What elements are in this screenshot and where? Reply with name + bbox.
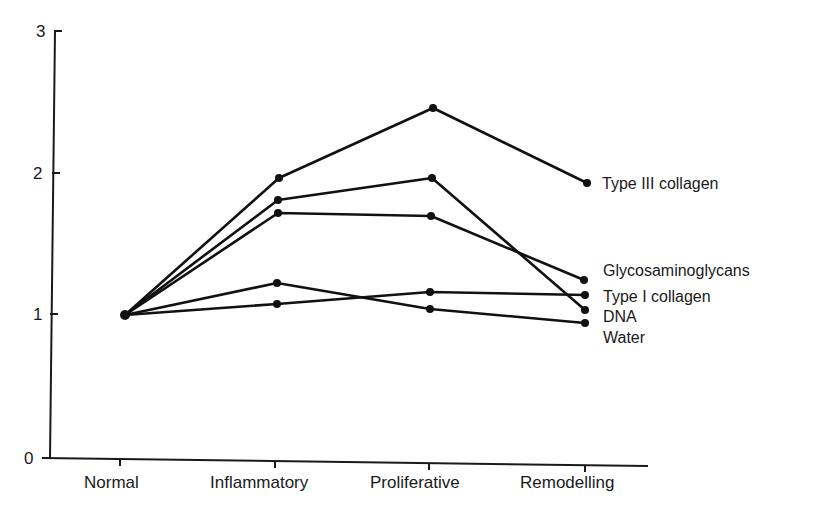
point — [274, 196, 282, 204]
point — [581, 291, 589, 299]
y-tick-label-0: 0 — [24, 449, 33, 468]
line-type-iii-collagen — [125, 108, 587, 315]
point — [429, 104, 437, 112]
label-glycosaminoglycans: Glycosaminoglycans — [603, 262, 750, 279]
label-water: Water — [603, 329, 646, 346]
line-chart: 3 2 1 0 Normal Inflammatory Proliferativ… — [0, 0, 815, 520]
series-labels: Type III collagen Glycosaminoglycans Typ… — [602, 175, 750, 346]
category-label-inflammatory: Inflammatory — [210, 473, 309, 492]
normal-origin-point — [120, 310, 130, 320]
axes — [42, 31, 648, 472]
label-type-i-collagen: Type I collagen — [603, 288, 711, 305]
label-type-iii-collagen: Type III collagen — [602, 175, 719, 192]
y-axis — [50, 31, 62, 458]
line-water — [125, 283, 585, 323]
point — [426, 305, 434, 313]
point — [274, 209, 282, 217]
y-tick-labels: 3 2 1 0 — [24, 22, 45, 468]
category-label-remodelling: Remodelling — [520, 473, 615, 492]
y-tick-label-1: 1 — [33, 305, 42, 324]
x-category-labels: Normal Inflammatory Proliferative Remode… — [84, 473, 615, 492]
point — [581, 319, 589, 327]
point — [426, 288, 434, 296]
series-water — [125, 279, 589, 327]
y-tick-label-3: 3 — [36, 22, 45, 41]
point — [273, 300, 281, 308]
point — [427, 212, 435, 220]
point — [428, 174, 436, 182]
category-label-normal: Normal — [84, 473, 139, 492]
point — [583, 179, 591, 187]
point — [580, 276, 588, 284]
point — [275, 174, 283, 182]
label-dna: DNA — [603, 308, 637, 325]
point — [273, 279, 281, 287]
series-type-iii-collagen — [125, 104, 591, 315]
x-axis — [42, 458, 648, 466]
y-tick-label-2: 2 — [33, 164, 42, 183]
category-label-proliferative: Proliferative — [370, 473, 460, 492]
point — [581, 306, 589, 314]
